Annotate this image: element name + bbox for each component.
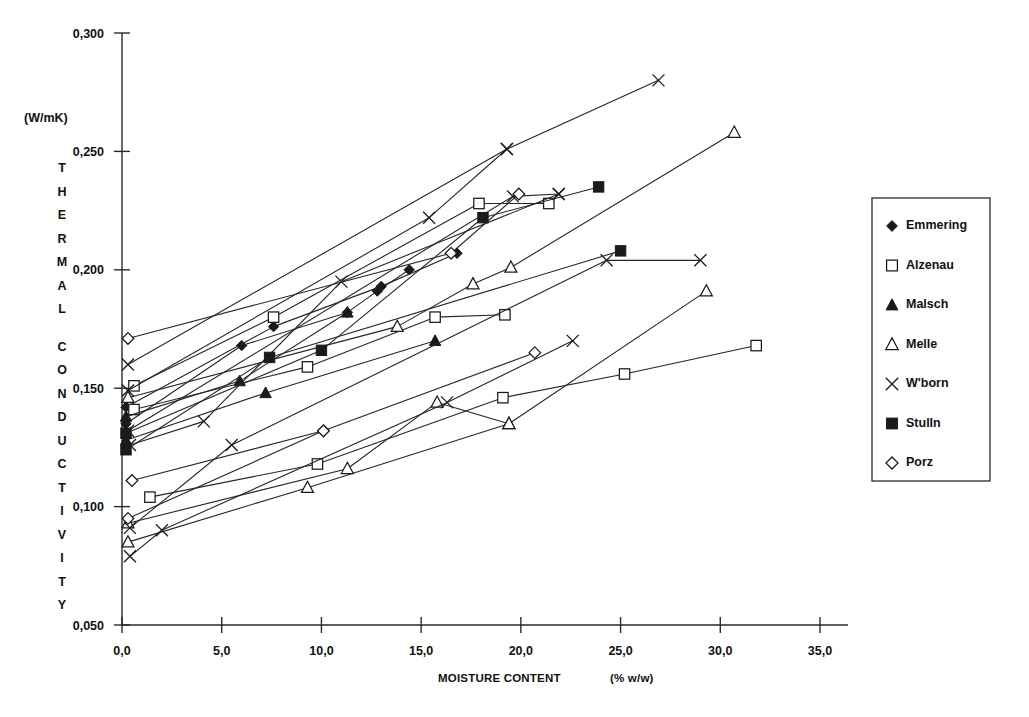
legend-item-label: Alzenau [906, 258, 954, 272]
y-axis-title-letter: T [58, 161, 66, 175]
y-tick-label: 0,200 [73, 263, 104, 277]
y-axis-title-letter: O [57, 363, 67, 377]
data-point-open-triangle [391, 320, 403, 331]
x-tick-label: 30,0 [708, 644, 732, 658]
y-axis-title-letter: Y [58, 598, 67, 612]
y-axis-title-letter: T [58, 481, 66, 495]
data-point-open-diamond [126, 475, 138, 487]
data-point-open-diamond [529, 347, 541, 359]
data-point-filled-diamond [268, 321, 278, 331]
series-wborn [124, 335, 579, 562]
data-point-open-square [751, 340, 761, 350]
legend-item-porz[interactable]: Porz [886, 455, 933, 469]
data-point-filled-square [121, 428, 131, 438]
legend-marker-open-square-icon [887, 260, 898, 271]
data-point-filled-square [121, 445, 131, 455]
thermal-conductivity-chart: 0,0500,1000,1500,2000,2500,3000,05,010,0… [0, 0, 1029, 717]
series-line [134, 203, 549, 385]
data-point-open-triangle [467, 278, 479, 289]
data-point-filled-triangle [260, 387, 271, 398]
series-stulln [121, 182, 604, 439]
y-axis-title-letter: C [57, 340, 66, 354]
series-line [128, 291, 706, 523]
legend-item-alzenau[interactable]: Alzenau [887, 258, 954, 272]
y-tick-label: 0,300 [73, 27, 104, 41]
series-line [126, 187, 599, 433]
legend-item-stulln[interactable]: Stulln [887, 416, 941, 430]
y-axis-title-letter: N [57, 387, 66, 401]
series-porz [126, 425, 329, 486]
y-axis-title-letter: U [57, 434, 66, 448]
y-axis-title-letter: E [58, 208, 66, 222]
data-point-open-triangle [505, 261, 517, 272]
legend-item-label: Malsch [906, 297, 948, 311]
y-tick-label: 0,250 [73, 145, 104, 159]
legend[interactable]: EmmeringAlzenauMalschMelleW'bornStullnPo… [872, 198, 990, 481]
legend-item-label: Emmering [906, 218, 967, 232]
data-point-open-square [887, 260, 898, 271]
y-axis-title-letter: M [57, 255, 67, 269]
data-point-open-square [500, 310, 510, 320]
y-axis-title-letter: V [58, 528, 67, 542]
series-line [132, 431, 323, 481]
axes-layer: 0,0500,1000,1500,2000,2500,3000,05,010,0… [73, 27, 848, 659]
data-point-open-triangle [341, 462, 353, 473]
x-tick-label: 15,0 [409, 644, 433, 658]
y-axis-title-letter: D [57, 410, 66, 424]
data-point-filled-square [478, 213, 488, 223]
data-point-open-square [498, 392, 508, 402]
data-point-filled-square [593, 182, 603, 192]
series-porz [122, 347, 540, 524]
legend-item-label: Melle [906, 337, 937, 351]
data-point-open-square [145, 492, 155, 502]
legend-item-label: Stulln [906, 416, 941, 430]
data-point-filled-square [887, 418, 898, 429]
chart-root: 0,0500,1000,1500,2000,2500,3000,05,010,0… [0, 0, 1029, 717]
legend-item-label: Porz [906, 455, 933, 469]
series-melle [122, 417, 515, 547]
y-axis-title-letter: T [58, 575, 66, 589]
series-line [130, 341, 573, 556]
legend-item-label: W'born [906, 376, 949, 390]
x-tick-label: 10,0 [309, 644, 333, 658]
series-line [126, 251, 621, 450]
data-point-open-square [474, 198, 484, 208]
y-axis-title-letter: A [57, 279, 66, 293]
y-tick-label: 0,050 [73, 619, 104, 633]
y-tick-label: 0,100 [73, 500, 104, 514]
y-axis-title-letter: I [60, 551, 63, 565]
series-line [128, 353, 535, 519]
y-axis-title-letter: C [57, 457, 66, 471]
y-axis-title-letter: L [58, 302, 66, 316]
y-axis-title-letter: R [57, 232, 66, 246]
x-tick-label: 25,0 [608, 644, 632, 658]
x-tick-label: 0,0 [113, 644, 130, 658]
series-alzenau [129, 198, 554, 391]
legend-marker-filled-square-icon [887, 418, 898, 429]
series-malsch [120, 335, 441, 445]
series-wborn [124, 188, 565, 451]
data-point-open-diamond [318, 425, 330, 437]
data-point-filled-square [264, 352, 274, 362]
series-wborn [122, 143, 513, 397]
series-line [130, 194, 559, 445]
series-melle [122, 285, 712, 528]
data-point-filled-diamond [404, 265, 414, 275]
x-tick-label: 35,0 [808, 644, 832, 658]
data-point-open-triangle [728, 126, 740, 137]
x-axis-title: MOISTURE CONTENT [438, 672, 561, 684]
series-layer [120, 74, 761, 562]
series-line [128, 80, 658, 364]
data-point-filled-triangle [429, 335, 440, 346]
y-axis-title-letter: I [60, 504, 63, 518]
series-wborn [122, 74, 664, 370]
data-point-open-square [268, 312, 278, 322]
data-point-open-square [302, 362, 312, 372]
x-axis-unit: (% w/w) [610, 672, 654, 684]
x-tick-label: 5,0 [213, 644, 230, 658]
series-wborn [124, 254, 706, 534]
data-point-open-diamond [122, 333, 134, 345]
y-tick-label: 0,150 [73, 382, 104, 396]
data-point-open-square [619, 369, 629, 379]
data-point-open-square [430, 312, 440, 322]
